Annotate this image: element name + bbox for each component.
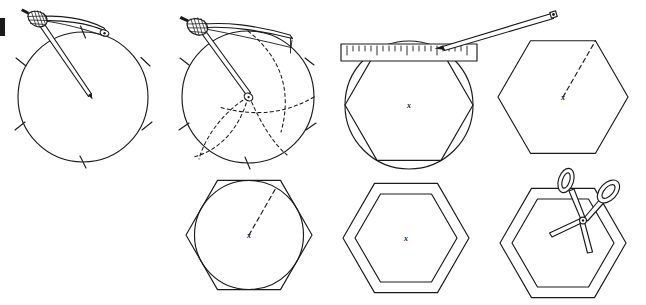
center-mark: x bbox=[403, 234, 408, 243]
hexagon-construction-figure: x bbox=[0, 0, 646, 305]
panel-5: x bbox=[186, 180, 312, 289]
hexagon-outer bbox=[500, 188, 626, 297]
pencil-tool bbox=[435, 11, 558, 51]
center-mark: x bbox=[560, 93, 565, 102]
panel-4: x bbox=[498, 41, 628, 154]
edge-crop-marker bbox=[0, 18, 5, 36]
panel-6: x bbox=[343, 183, 469, 292]
center-mark: x bbox=[406, 101, 411, 110]
tick-marks bbox=[15, 26, 152, 168]
circle-outline bbox=[18, 32, 148, 162]
compass-tool bbox=[180, 16, 293, 103]
dashed-radius bbox=[563, 41, 596, 97]
center-mark-label: x bbox=[406, 101, 411, 110]
center-mark: x bbox=[246, 231, 251, 240]
center-mark-label: x bbox=[560, 93, 565, 102]
panel-2 bbox=[179, 16, 316, 169]
center-mark-label: x bbox=[403, 234, 408, 243]
panel-1 bbox=[15, 9, 152, 169]
panel-7 bbox=[500, 166, 626, 297]
figure-canvas: x bbox=[0, 0, 646, 305]
dashed-radius bbox=[249, 188, 276, 235]
hexagon-inner bbox=[512, 199, 614, 287]
tick-marks bbox=[179, 58, 316, 169]
center-mark-label: x bbox=[246, 231, 251, 240]
panel-3: x bbox=[341, 11, 557, 169]
dashed-construction-arcs bbox=[194, 31, 314, 159]
